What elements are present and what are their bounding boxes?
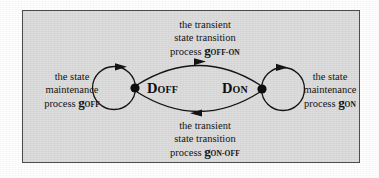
state-node-d-on [257, 84, 266, 93]
annotation-left-line2: maintenance [28, 83, 116, 96]
state-node-d-off [130, 83, 139, 92]
annotation-transition-off-on: the transient state transition process g… [150, 18, 260, 59]
annotation-left-process-word: process [44, 98, 76, 109]
annotation-top-process-word: process [170, 46, 202, 57]
annotation-bottom-process-subscript: ON-OFF [211, 149, 240, 158]
annotation-top-process-subscript: OFF-ON [211, 48, 240, 57]
annotation-top-line1: the transient [150, 18, 260, 31]
annotation-right-line2: maintenance [286, 83, 374, 96]
annotation-left-process-subscript: OFF [85, 100, 100, 109]
annotation-transition-on-off: the transient state transition process g… [150, 119, 260, 160]
state-symbol-d-on: D [222, 80, 232, 96]
annotation-left-process: process gOFF [28, 96, 116, 111]
annotation-bottom-process-word: process [170, 147, 202, 158]
annotation-maintenance-off: the state maintenance process gOFF [28, 70, 116, 111]
annotation-left-line1: the state [28, 70, 116, 83]
annotation-bottom-line1: the transient [150, 119, 260, 132]
annotation-maintenance-on: the state maintenance process gON [286, 70, 374, 111]
annotation-right-process-word: process [304, 98, 336, 109]
state-subscript-d-on: ON [232, 84, 247, 95]
annotation-bottom-process: process gON-OFF [150, 145, 260, 160]
figure-canvas: DOFF DON the transient state transition … [0, 0, 379, 178]
state-symbol-d-off: D [147, 80, 157, 96]
state-label-d-off: DOFF [147, 79, 178, 97]
annotation-right-process-subscript: ON [344, 100, 355, 109]
annotation-top-process: process gOFF-ON [150, 44, 260, 59]
state-subscript-d-off: OFF [157, 84, 178, 95]
annotation-right-process: process gON [286, 96, 374, 111]
annotation-right-line1: the state [286, 70, 374, 83]
state-label-d-on: DON [222, 79, 248, 97]
